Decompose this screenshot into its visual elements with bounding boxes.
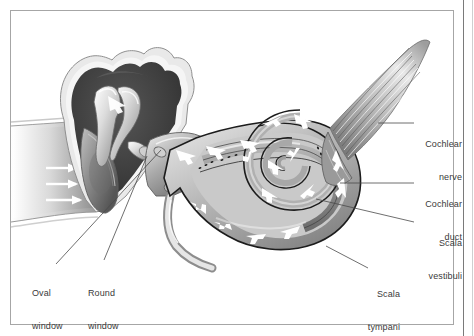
label-scala-vestibuli-line1: Scala — [372, 238, 462, 249]
label-scala-tympani: Scala tympani — [330, 267, 400, 336]
label-round-window-line1: Round — [88, 288, 158, 299]
label-cochlear-duct-line1: Cochlear — [372, 199, 462, 210]
label-scala-tympani-line2: tympani — [330, 322, 400, 333]
label-cochlear-nerve-line1: Cochlear — [372, 139, 462, 150]
label-round-window-line2: window — [88, 321, 158, 332]
label-round-window: Round window — [88, 266, 158, 336]
label-scala-tympani-line1: Scala — [330, 289, 400, 300]
